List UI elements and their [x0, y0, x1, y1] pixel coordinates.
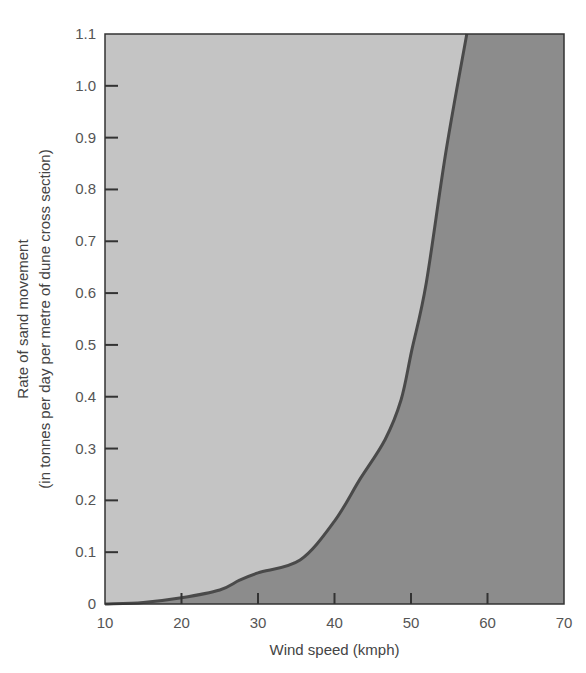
x-tick-label: 50 [403, 614, 420, 631]
x-tick-label: 20 [173, 614, 190, 631]
x-tick-label: 70 [556, 614, 573, 631]
y-axis-title-line1: Rate of sand movement [14, 239, 31, 399]
x-tick-label: 30 [250, 614, 267, 631]
y-tick-label: 0.7 [75, 232, 96, 249]
y-tick-label: 0.8 [75, 180, 96, 197]
y-tick-label: 0 [88, 595, 96, 612]
y-tick-label: 1.1 [75, 25, 96, 42]
x-tick-label: 40 [326, 614, 343, 631]
y-tick-label: 0.9 [75, 129, 96, 146]
sand-movement-chart: 00.10.20.30.40.50.60.70.80.91.01.1 10203… [0, 0, 586, 673]
plot-area [105, 34, 564, 604]
y-tick-label: 0.1 [75, 543, 96, 560]
y-tick-label: 0.3 [75, 440, 96, 457]
y-tick-label: 0.6 [75, 284, 96, 301]
x-tick-label: 60 [479, 614, 496, 631]
y-axis-title-line2: (in tonnes per day per metre of dune cro… [36, 149, 53, 488]
y-tick-label: 0.4 [75, 388, 96, 405]
y-tick-label: 1.0 [75, 77, 96, 94]
y-tick-label: 0.5 [75, 336, 96, 353]
x-tick-label: 10 [97, 614, 114, 631]
y-tick-label: 0.2 [75, 491, 96, 508]
x-axis-title: Wind speed (kmph) [269, 641, 399, 658]
